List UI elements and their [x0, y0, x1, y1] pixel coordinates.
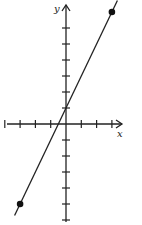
endpoint-marker: [17, 201, 24, 208]
endpoint-marker: [109, 9, 116, 16]
y-axis-label: y: [53, 3, 60, 14]
x-axis-label: x: [117, 128, 123, 139]
coordinate-plot: x y: [0, 0, 142, 225]
